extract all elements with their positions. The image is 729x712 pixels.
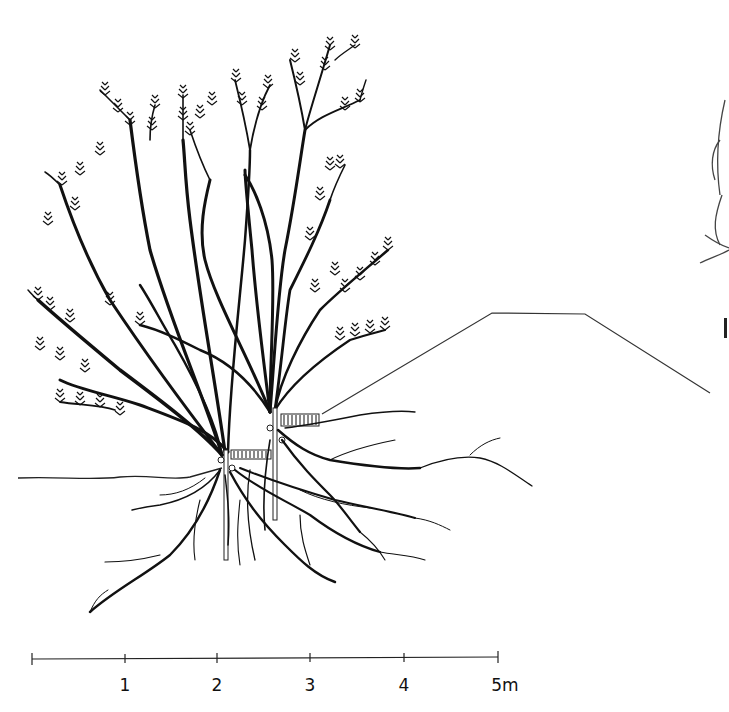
scale-label-4: 4: [399, 675, 410, 695]
neighbor-figure-partial: [700, 100, 729, 263]
scale-label-2: 2: [212, 675, 223, 695]
foliage-tufts: [33, 35, 393, 415]
ground-line: [18, 468, 222, 479]
partial-figure-label: [724, 318, 727, 338]
measuring-stakes: [218, 408, 319, 560]
terrain-profile-line: [322, 313, 710, 414]
root-system: [90, 411, 532, 612]
scale-bar: [32, 651, 498, 665]
scale-label-3: 3: [305, 675, 316, 695]
shrub-root-diagram: [0, 0, 729, 712]
scale-label-1: 1: [120, 675, 131, 695]
scale-label-5m: 5m: [491, 675, 518, 695]
